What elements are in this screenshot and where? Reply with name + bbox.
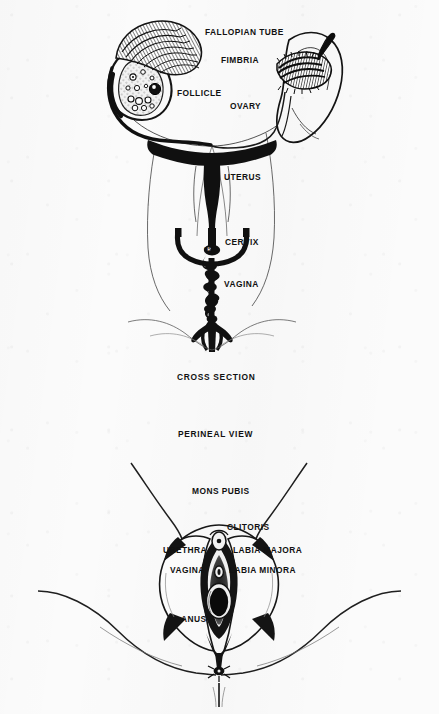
label-uterus: UTERUS	[224, 173, 261, 181]
label-labia-majora: LABIA MAJORA	[233, 546, 302, 554]
label-fallopian-tube: FALLOPIAN TUBE	[205, 28, 284, 36]
label-clitoris: CLITORIS	[227, 523, 270, 531]
broad-ligament-right	[212, 112, 292, 306]
label-os: OS	[204, 247, 211, 252]
label-ovary: OVARY	[230, 102, 261, 110]
urethral-meatus	[215, 566, 224, 578]
uterus	[147, 140, 277, 230]
vaginal-introitus	[191, 320, 232, 352]
label-fimbria: FIMBRIA	[221, 56, 259, 64]
cross-section-illustration	[0, 0, 439, 360]
caption-perineal-view: PERINEAL VIEW	[178, 430, 253, 438]
label-labia-minora: LABIA MINORA	[229, 566, 296, 574]
diagram-page: FALLOPIAN TUBE FIMBRIA FOLLICLE OVARY UT…	[0, 0, 439, 714]
broad-ligament-left	[122, 107, 212, 311]
anus-sphincter	[208, 661, 230, 682]
label-follicle: FOLLICLE	[177, 89, 222, 97]
label-mons-pubis: MONS PUBIS	[192, 487, 250, 495]
label-anus: ANUS	[181, 615, 207, 623]
label-vagina-perineal: VAGINA	[170, 566, 205, 574]
label-vagina-cross-section: VAGINA	[224, 280, 259, 288]
vaginal-orifice	[207, 584, 232, 619]
caption-cross-section: CROSS SECTION	[177, 373, 255, 381]
label-cervix: CERVIX	[225, 238, 259, 246]
label-urethra: URETHRA	[163, 546, 207, 554]
